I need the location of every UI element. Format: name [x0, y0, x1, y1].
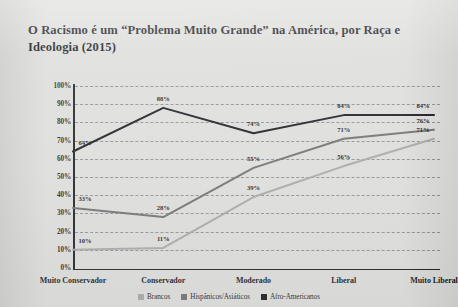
data-point-label: 11%: [157, 234, 170, 241]
x-axis-tick-label: Muito Conservador: [40, 276, 106, 285]
series-line: [73, 108, 434, 152]
data-point-label: 55%: [247, 154, 260, 161]
data-point-label: 71%: [337, 125, 350, 132]
x-axis-tick-label: Muito Liberal: [410, 276, 458, 285]
legend-label: Brancos: [147, 293, 170, 301]
legend-item[interactable]: Hispânicos/Asiáticos: [181, 293, 250, 301]
series-line: [73, 130, 434, 217]
data-point-label: 84%: [337, 102, 350, 109]
legend-item[interactable]: Brancos: [138, 293, 170, 301]
data-point-label: 33%: [79, 194, 92, 201]
data-point-label: 56%: [337, 153, 350, 160]
data-point-label: 71%: [417, 125, 430, 132]
legend-swatch-icon: [138, 294, 144, 300]
legend-swatch-icon: [261, 294, 267, 300]
data-point-label: 28%: [157, 204, 170, 211]
x-axis-tick-label: Conservador: [141, 276, 185, 285]
legend-item[interactable]: Afro-Americanos: [261, 293, 320, 301]
plot-area: 0%10%20%30%40%50%60%70%80%90%100% 10%11%…: [16, 76, 444, 274]
chart-legend: BrancosHispânicos/AsiáticosAfro-American…: [0, 293, 458, 301]
data-point-label: 10%: [79, 236, 92, 243]
data-point-label: 74%: [247, 120, 260, 127]
legend-label: Afro-Americanos: [270, 293, 320, 301]
data-point-label: 39%: [247, 184, 260, 191]
data-point-label: 84%: [417, 102, 430, 109]
series-lines: [16, 76, 444, 274]
x-axis-tick-label: Moderado: [236, 276, 271, 285]
chart-page: O Racismo é um “Problema Muito Grande” n…: [0, 0, 458, 307]
data-point-label: 64%: [79, 138, 92, 145]
legend-swatch-icon: [181, 294, 187, 300]
data-point-label: 76%: [417, 116, 430, 123]
page-title: O Racismo é um “Problema Muito Grande” n…: [28, 22, 432, 55]
x-axis-tick-labels: Muito ConservadorConservadorModeradoLibe…: [16, 276, 444, 290]
x-axis-tick-label: Liberal: [331, 276, 356, 285]
data-point-label: 88%: [157, 94, 170, 101]
legend-label: Hispânicos/Asiáticos: [190, 293, 250, 301]
